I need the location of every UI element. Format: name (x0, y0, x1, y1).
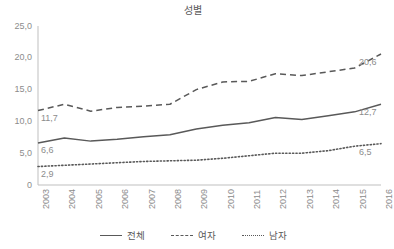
legend-line-icon (100, 231, 122, 240)
legend-label: 여자 (198, 228, 216, 242)
end-label-여자: 20,6 (359, 58, 377, 67)
legend-item-여자[interactable]: 여자 (171, 228, 216, 242)
legend-line-icon (242, 231, 264, 240)
end-label-전체: 12,7 (359, 108, 377, 117)
start-label-여자: 11,7 (41, 114, 58, 123)
legend-line-icon (171, 231, 193, 240)
series-line-전체 (38, 104, 381, 143)
chart-legend: 전체여자남자 (0, 228, 387, 242)
legend-item-남자[interactable]: 남자 (242, 228, 287, 242)
series-line-여자 (38, 54, 381, 111)
start-label-전체: 6,6 (41, 146, 54, 155)
legend-label: 전체 (127, 228, 145, 242)
legend-item-전체[interactable]: 전체 (100, 228, 145, 242)
legend-label: 남자 (269, 228, 287, 242)
start-label-남자: 2,9 (41, 170, 54, 179)
series-layer (38, 54, 381, 167)
end-label-남자: 6,5 (359, 148, 372, 157)
series-line-남자 (38, 144, 381, 167)
